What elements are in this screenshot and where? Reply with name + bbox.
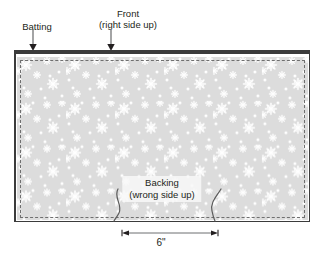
bottom-details [0,0,327,257]
dimension-line [122,230,218,236]
quilt-assembly-diagram: Batting Front (right side up) [0,0,327,257]
dimension-label: 6" [131,237,191,248]
left-fold-curve [114,189,120,221]
right-fold-curve [212,189,221,221]
